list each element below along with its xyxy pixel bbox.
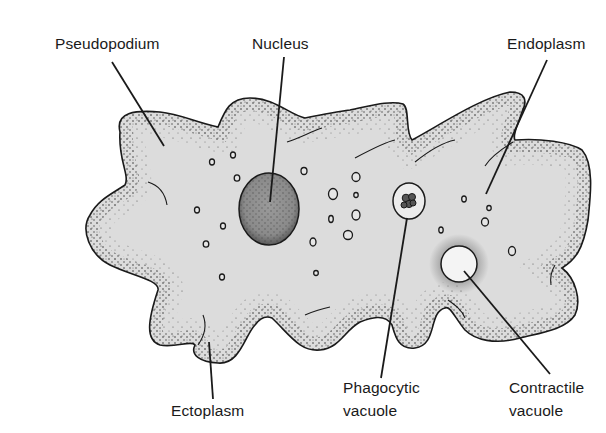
- label-contractile-vacuole: Contractile vacuole: [509, 379, 584, 420]
- label-ectoplasm: Ectoplasm: [171, 402, 244, 420]
- label-endoplasm: Endoplasm: [507, 35, 585, 53]
- phagocytic-vacuole: [393, 183, 425, 219]
- amoeba-illustration: [0, 0, 606, 433]
- label-contractile-line2: vacuole: [509, 402, 584, 420]
- label-pseudopodium: Pseudopodium: [55, 35, 160, 53]
- contractile-vacuole: [429, 234, 489, 294]
- nucleus: [239, 173, 299, 245]
- label-contractile-line1: Contractile: [509, 379, 584, 397]
- label-phagocytic-line1: Phagocytic: [343, 379, 420, 397]
- amoeba-diagram: Pseudopodium Nucleus Endoplasm Ectoplasm…: [0, 0, 606, 433]
- label-nucleus: Nucleus: [252, 35, 309, 53]
- label-phagocytic-line2: vacuole: [343, 402, 420, 420]
- cytoplasm: [86, 92, 591, 363]
- food-particle: [401, 194, 416, 209]
- label-phagocytic-vacuole: Phagocytic vacuole: [343, 379, 420, 420]
